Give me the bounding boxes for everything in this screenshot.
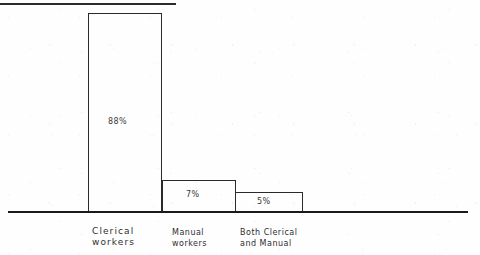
category-label-both-clerical-and-manual: Both Clerical and Manual — [240, 227, 297, 249]
bar-chart: 88% 7% 5% Clerical workers Manual worker… — [0, 0, 480, 255]
top-rule-line — [0, 3, 176, 5]
category-label-clerical-workers: Clerical workers — [92, 226, 135, 248]
paper-texture — [0, 0, 480, 255]
bar-value-both-clerical-and-manual: 5% — [257, 197, 271, 206]
category-label-manual-workers: Manual workers — [172, 227, 207, 249]
bar-value-manual-workers: 7% — [186, 190, 200, 199]
bar-clerical-workers — [88, 13, 162, 212]
bar-value-clerical-workers: 88% — [108, 117, 127, 126]
x-axis-baseline — [8, 211, 468, 213]
